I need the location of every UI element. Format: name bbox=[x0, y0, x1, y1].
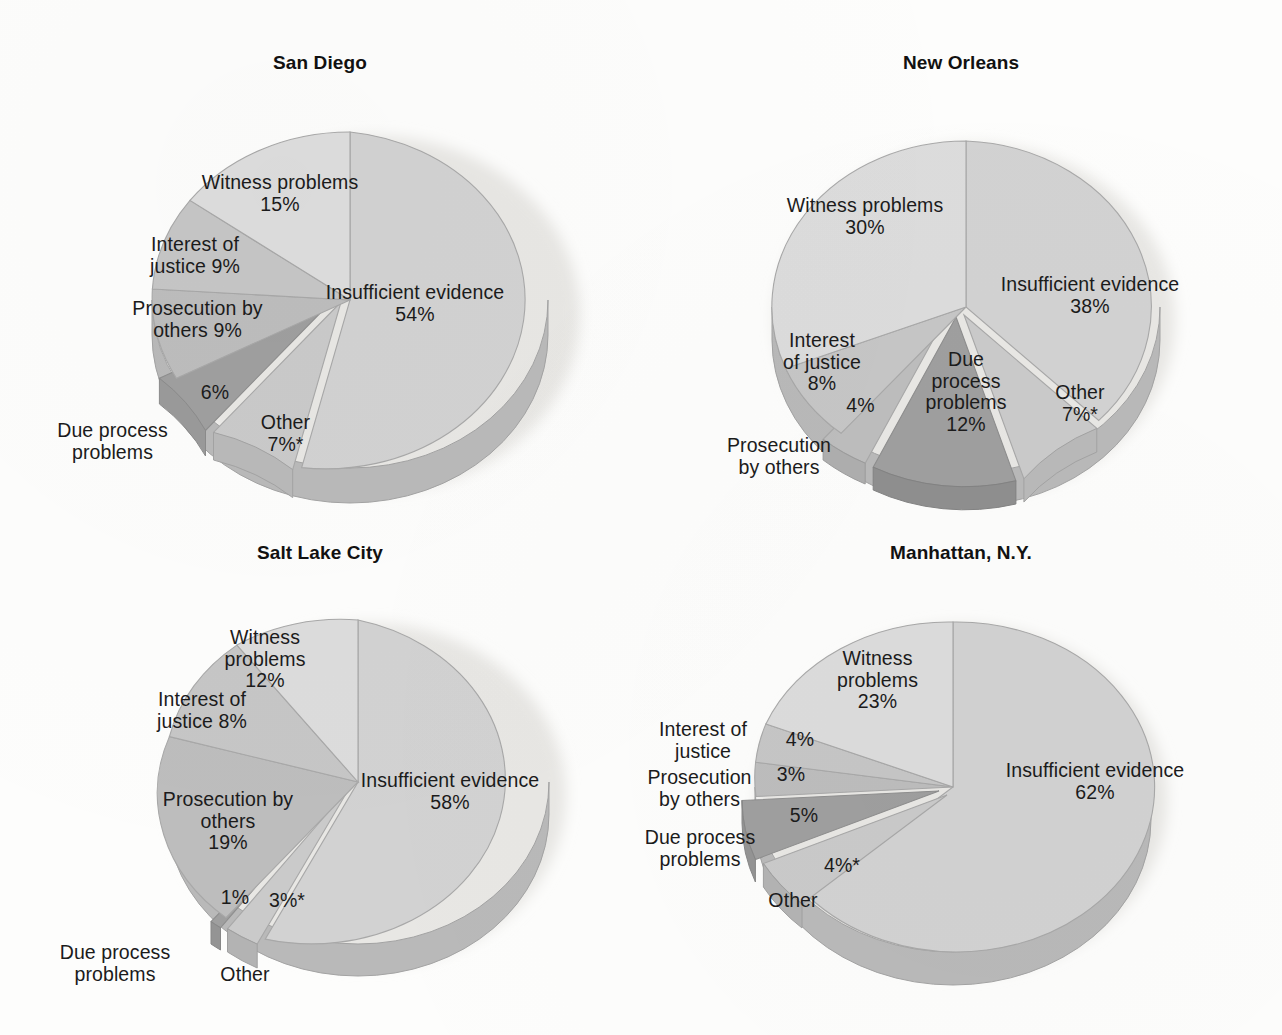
callout-label-prosecution-by-others: Prosecution by others bbox=[622, 767, 777, 810]
slice-label-due-process-problems: 1% bbox=[212, 887, 258, 909]
pie-panel-san-diego: San Diego bbox=[0, 52, 640, 522]
slice-label-insufficient-evidence: Insufficient evidence 38% bbox=[970, 274, 1210, 317]
slice-label-prosecution-by-others: Prosecution by others 9% bbox=[105, 298, 290, 341]
slice-label-interest-of-justice: Interest of justice 8% bbox=[122, 689, 282, 732]
slice-label-due-process-problems: Due process problems 12% bbox=[892, 349, 1040, 435]
callout-label-other: Other bbox=[748, 890, 838, 912]
slice-label-insufficient-evidence: Insufficient evidence 54% bbox=[300, 282, 530, 325]
figure-canvas: San Diego bbox=[0, 0, 1282, 1035]
slice-label-interest-of-justice: 4% bbox=[770, 729, 830, 751]
callout-label-due-process-problems: Due process problems bbox=[25, 942, 205, 985]
slice-label-witness-problems: Witness problems 15% bbox=[170, 172, 390, 215]
slice-label-other: Other 7%* bbox=[1030, 382, 1130, 425]
slice-label-witness-problems: Witness problems 30% bbox=[750, 195, 980, 238]
slice-label-prosecution-by-others: Prosecution by others 19% bbox=[133, 789, 323, 854]
pie-panel-new-orleans: New Orleans bbox=[640, 52, 1282, 522]
slice-label-other: Other 7%* bbox=[238, 412, 333, 455]
pie-panel-salt-lake-city: Salt Lake City bbox=[0, 542, 640, 1022]
callout-label-other: Other bbox=[205, 964, 285, 986]
slice-label-interest-of-justice: Interest of justice 9% bbox=[120, 234, 270, 277]
slice-label-other: 4%* bbox=[803, 855, 881, 877]
slice-label-witness-problems: Witness problems 12% bbox=[185, 627, 345, 692]
slice-label-insufficient-evidence: Insufficient evidence 58% bbox=[330, 770, 570, 813]
callout-label-prosecution-by-others: Prosecution by others bbox=[695, 435, 863, 478]
callout-label-due-process-problems: Due process problems bbox=[620, 827, 780, 870]
slice-label-insufficient-evidence: Insufficient evidence 62% bbox=[970, 760, 1220, 803]
slice-label-witness-problems: Witness problems 23% bbox=[795, 648, 960, 713]
slice-label-interest-of-justice: Interest of justice 8% bbox=[752, 330, 892, 395]
pie-panel-manhattan: Manhattan, N.Y. bbox=[640, 542, 1282, 1022]
slice-label-prosecution-by-others: 4% bbox=[833, 395, 888, 417]
callout-label-due-process-problems: Due process problems bbox=[30, 420, 195, 463]
slice-label-other: 3%* bbox=[256, 890, 318, 912]
callout-label-interest-of-justice: Interest of justice bbox=[628, 719, 778, 762]
slice-label-due-process-problems: 6% bbox=[185, 382, 245, 404]
slice-label-due-process-problems: 5% bbox=[775, 805, 833, 827]
